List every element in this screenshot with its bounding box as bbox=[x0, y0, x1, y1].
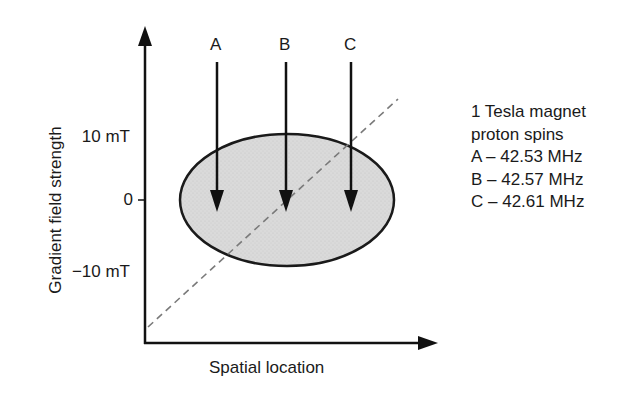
legend-entry-c: C – 42.61 MHz bbox=[471, 191, 586, 214]
x-axis-arrowhead-icon bbox=[418, 336, 438, 350]
y-axis-arrowhead-icon bbox=[138, 26, 152, 46]
legend: 1 Tesla magnet proton spins A – 42.53 MH… bbox=[471, 101, 586, 214]
y-tick-minus-10mT: −10 mT bbox=[72, 262, 130, 282]
arrow-label-a: A bbox=[210, 35, 221, 55]
legend-title-line2: proton spins bbox=[471, 124, 586, 147]
y-axis-label: Gradient field strength bbox=[46, 126, 66, 293]
x-axis-label: Spatial location bbox=[209, 358, 324, 378]
y-tick-0: 0 bbox=[124, 190, 133, 210]
y-tick-10mT: 10 mT bbox=[82, 127, 130, 147]
arrow-label-b: B bbox=[279, 35, 290, 55]
legend-entry-b: B – 42.57 MHz bbox=[471, 169, 586, 192]
legend-title-line1: 1 Tesla magnet bbox=[471, 101, 586, 124]
legend-entry-a: A – 42.53 MHz bbox=[471, 146, 586, 169]
y-axis bbox=[138, 26, 152, 344]
arrow-label-c: C bbox=[344, 35, 356, 55]
x-axis bbox=[144, 336, 438, 350]
